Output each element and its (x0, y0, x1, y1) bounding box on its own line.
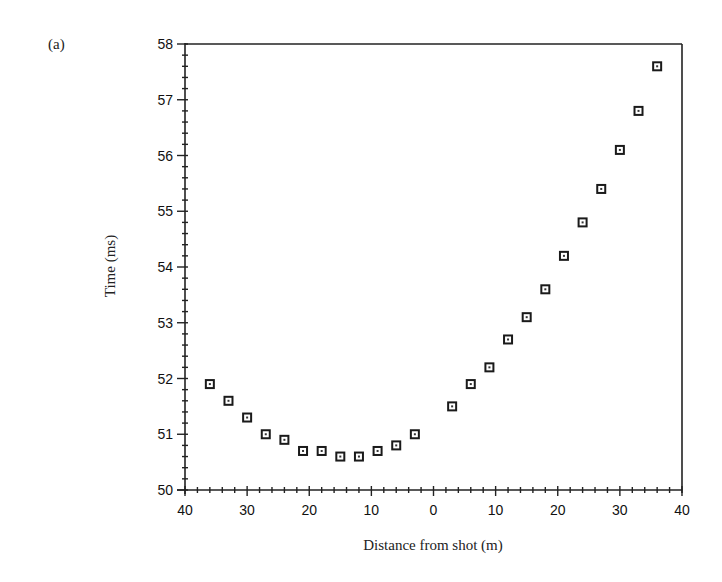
marker-dot (488, 366, 490, 368)
marker-dot (638, 110, 640, 112)
marker-dot (209, 383, 211, 385)
data-point (448, 402, 456, 410)
plot-frame (177, 43, 682, 494)
scatter-chart: (a) 40302010010203040 505152535455565758… (0, 0, 722, 582)
data-point (411, 430, 419, 438)
x-tick-label: 40 (177, 502, 193, 518)
data-point (523, 313, 531, 321)
y-axis-tick-labels: 505152535455565758 (157, 36, 173, 498)
x-tick-label: 20 (301, 502, 317, 518)
data-point (392, 441, 400, 449)
data-point (243, 414, 251, 422)
marker-dot (265, 433, 267, 435)
marker-dot (358, 456, 360, 458)
marker-dot (507, 338, 509, 340)
marker-dot (563, 255, 565, 257)
x-tick-label: 0 (430, 502, 438, 518)
marker-dot (246, 417, 248, 419)
data-point (224, 397, 232, 405)
y-axis-ticks (177, 44, 188, 490)
marker-dot (582, 221, 584, 223)
marker-dot (544, 288, 546, 290)
x-axis-title: Distance from shot (m) (363, 537, 503, 554)
data-points (206, 62, 661, 460)
x-axis-ticks (185, 486, 682, 496)
marker-dot (619, 149, 621, 151)
marker-dot (321, 450, 323, 452)
data-point (206, 380, 214, 388)
data-point (336, 453, 344, 461)
marker-dot (395, 444, 397, 446)
data-point (616, 146, 624, 154)
y-axis-title: Time (ms) (102, 235, 119, 297)
marker-dot (656, 65, 658, 67)
x-tick-label: 10 (488, 502, 504, 518)
y-tick-label: 53 (157, 315, 173, 331)
y-tick-label: 54 (157, 259, 173, 275)
marker-dot (470, 383, 472, 385)
data-point (374, 447, 382, 455)
data-point (280, 436, 288, 444)
data-point (597, 185, 605, 193)
marker-dot (227, 400, 229, 402)
x-tick-label: 20 (550, 502, 566, 518)
x-tick-label: 10 (364, 502, 380, 518)
marker-dot (414, 433, 416, 435)
marker-dot (339, 456, 341, 458)
marker-dot (600, 188, 602, 190)
data-point (653, 62, 661, 70)
marker-dot (302, 450, 304, 452)
panel-label: (a) (48, 36, 65, 53)
marker-dot (526, 316, 528, 318)
y-tick-label: 58 (157, 36, 173, 52)
data-point (299, 447, 307, 455)
x-tick-label: 30 (239, 502, 255, 518)
data-point (485, 363, 493, 371)
data-point (504, 335, 512, 343)
marker-dot (377, 450, 379, 452)
data-point (560, 252, 568, 260)
x-axis-tick-labels: 40302010010203040 (177, 502, 690, 518)
marker-dot (451, 405, 453, 407)
x-tick-label: 30 (612, 502, 628, 518)
y-tick-label: 52 (157, 371, 173, 387)
data-point (579, 218, 587, 226)
data-point (355, 453, 363, 461)
data-point (318, 447, 326, 455)
y-tick-label: 50 (157, 482, 173, 498)
data-point (262, 430, 270, 438)
y-tick-label: 56 (157, 148, 173, 164)
data-point (635, 107, 643, 115)
x-tick-label: 40 (674, 502, 690, 518)
y-tick-label: 51 (157, 426, 173, 442)
marker-dot (283, 439, 285, 441)
y-tick-label: 55 (157, 203, 173, 219)
y-tick-label: 57 (157, 92, 173, 108)
data-point (467, 380, 475, 388)
data-point (541, 285, 549, 293)
